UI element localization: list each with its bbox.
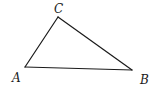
vertex-label-a: A [11, 71, 21, 85]
vertex-label-c: C [54, 2, 63, 16]
edge-cb [58, 17, 132, 70]
edge-ac [25, 17, 58, 67]
edge-ab [25, 67, 132, 70]
triangle-diagram: A B C [0, 0, 152, 87]
triangle-edges [25, 17, 132, 70]
vertex-labels: A B C [11, 2, 149, 87]
vertex-label-b: B [139, 73, 149, 87]
